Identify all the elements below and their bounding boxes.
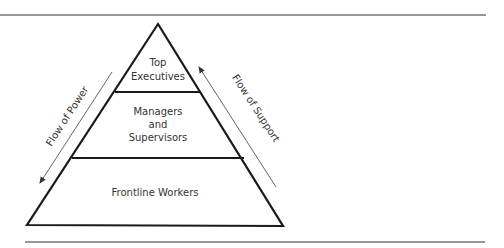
flow-of-power-arrow <box>40 72 112 183</box>
level-top-line1: Top <box>149 57 167 68</box>
level-middle-line1: Managers <box>133 106 182 117</box>
level-middle-line3: Supervisors <box>129 132 188 143</box>
level-top-line2: Executives <box>131 71 185 82</box>
pyramid-diagram: Top Executives Managers and Supervisors … <box>0 0 504 248</box>
level-bottom-label: Frontline Workers <box>112 187 199 198</box>
level-middle-line2: and <box>149 119 168 130</box>
flow-of-support-label: Flow of Support <box>230 72 282 144</box>
